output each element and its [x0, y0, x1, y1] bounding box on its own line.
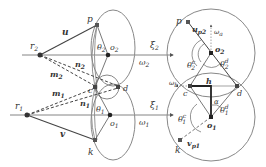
point-d-right — [235, 84, 239, 88]
label-k-right: k — [175, 145, 180, 155]
link-c-o1 — [190, 86, 211, 117]
label-omega1: ω1 — [139, 118, 149, 128]
label-c-right: c — [183, 89, 188, 98]
label-up2: up2 — [192, 24, 206, 36]
point-o1-right — [209, 115, 213, 119]
point-o2 — [106, 53, 111, 58]
label-theta2c: θc2 — [187, 58, 196, 71]
label-u: u — [62, 27, 69, 37]
label-o2: o2 — [110, 43, 119, 53]
label-p: p — [87, 14, 93, 24]
label-xi2: ξ2 — [150, 40, 159, 51]
label-n2: n2 — [75, 59, 85, 70]
label-theta2d: θd2 — [220, 57, 229, 70]
point-o2-right — [209, 51, 213, 55]
point-r1 — [25, 113, 30, 118]
label-c: c — [88, 86, 93, 95]
label-p-right: p — [176, 16, 182, 26]
label-vp1: vp1 — [187, 138, 200, 150]
label-alpha: α — [214, 98, 219, 106]
label-o1-right: o1 — [207, 120, 217, 131]
figure-canvas: r2 r1 p o2 θ2 c d θ1 o1 k u v m2 n2 m1 n… — [0, 0, 266, 167]
label-d: d — [123, 84, 128, 93]
label-theta1: θ1 — [96, 105, 105, 115]
angle-arc-theta1c — [190, 104, 201, 132]
point-d — [116, 85, 120, 89]
label-k: k — [88, 147, 93, 157]
label-m1: m1 — [52, 88, 65, 99]
link-o1-k — [95, 115, 110, 140]
label-omega-a: ωa — [214, 28, 223, 37]
label-o2-right: o2 — [215, 44, 225, 55]
point-o1 — [108, 113, 113, 118]
point-r2 — [38, 53, 43, 58]
point-k — [93, 138, 97, 142]
point-k-right — [178, 138, 182, 142]
left-diagram: r2 r1 p o2 θ2 c d θ1 o1 k u v m2 n2 m1 n… — [10, 10, 173, 160]
label-omega2: ω2 — [139, 58, 150, 68]
label-o1: o1 — [110, 119, 119, 129]
label-theta1c: θc1 — [178, 112, 187, 125]
label-xi1: ξ1 — [150, 100, 159, 111]
label-m2: m2 — [50, 69, 63, 80]
right-diagram: p up2 ωa o2 θd2 θc2 ωb h c d α θd1 θc1 o… — [167, 9, 255, 161]
angle-arc-theta2d — [203, 64, 220, 68]
label-r1: r1 — [15, 101, 23, 112]
label-r2: r2 — [30, 41, 38, 52]
point-p — [95, 23, 99, 27]
vector-m2 — [40, 55, 95, 86]
label-h: h — [206, 76, 212, 86]
label-d-right: d — [237, 89, 242, 98]
label-omega-b: ωb — [169, 79, 178, 88]
label-v: v — [60, 129, 66, 139]
angle-arc-theta2c-2 — [198, 44, 204, 62]
label-n1: n1 — [80, 98, 90, 109]
point-c — [93, 85, 97, 89]
point-c-right — [188, 84, 192, 88]
point-p-right — [186, 20, 190, 24]
